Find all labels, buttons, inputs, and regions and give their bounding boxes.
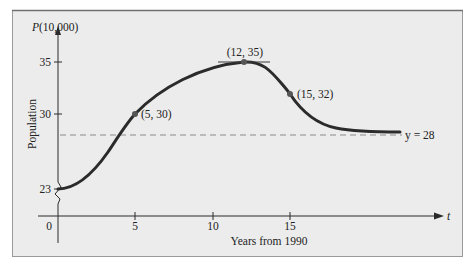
asymptote-label: y = 28 <box>405 129 435 142</box>
point-label-5-30: (5, 30) <box>141 108 172 121</box>
point-label-15-32: (15, 32) <box>297 88 334 101</box>
x-tick-label-15: 15 <box>284 220 296 232</box>
x-axis-label: Years from 1990 <box>231 235 308 247</box>
x-tick-label-5: 5 <box>132 220 138 232</box>
x-tick-label-0: 0 <box>46 220 52 232</box>
point-15-32 <box>287 91 293 97</box>
y-tick-label-30: 30 <box>40 108 52 120</box>
point-label-12-35: (12, 35) <box>227 46 264 59</box>
y-tick-label-23: 23 <box>40 183 52 195</box>
y-axis-title: P(10,000) <box>31 21 78 34</box>
y-tick-label-35: 35 <box>40 56 52 68</box>
point-12-35 <box>241 59 247 65</box>
x-tick-label-10: 10 <box>207 220 219 232</box>
population-chart: P(10,000) Population Years from 1990 t y… <box>0 0 474 273</box>
y-axis-label: Population <box>26 99 39 149</box>
point-5-30 <box>132 111 138 117</box>
